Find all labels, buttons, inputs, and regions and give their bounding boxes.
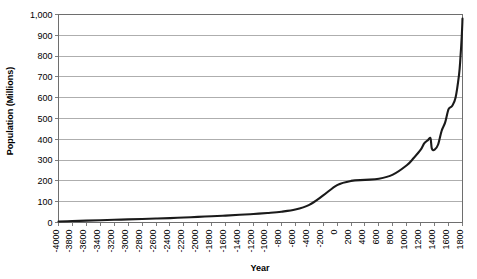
y-tick-label-800: 800	[37, 51, 52, 61]
y-tick-label-100: 100	[37, 197, 52, 207]
y-tick-label-400: 400	[37, 135, 52, 145]
x-tick-label-0: 0	[329, 230, 339, 235]
population-line-chart: Population (Millions) 010020030040050060…	[0, 0, 477, 279]
y-tick-marks	[55, 15, 59, 223]
y-tick-label-200: 200	[37, 176, 52, 186]
x-tick-label--3400: -3400	[92, 230, 102, 253]
x-tick-label--600: -600	[287, 230, 297, 248]
y-tick-label-600: 600	[37, 93, 52, 103]
data-series	[59, 19, 463, 222]
x-tick-label--3800: -3800	[64, 230, 74, 253]
x-tick-label--1600: -1600	[218, 230, 228, 253]
plot-canvas: 01002003004005006007008009001,000 -4000-…	[0, 0, 477, 279]
x-tick-label--2400: -2400	[162, 230, 172, 253]
x-axis-title-text: Year	[250, 263, 269, 273]
series-line-0	[59, 19, 463, 222]
y-tick-label-500: 500	[37, 114, 52, 124]
x-tick-label-1600: 1600	[441, 230, 451, 250]
x-axis-title: Year	[58, 263, 462, 273]
x-tick-label--800: -800	[273, 230, 283, 248]
x-tick-label--1000: -1000	[259, 230, 269, 253]
x-tick-label--1800: -1800	[204, 230, 214, 253]
x-tick-label-800: 800	[385, 230, 395, 245]
x-tick-label-600: 600	[371, 230, 381, 245]
x-tick-label-200: 200	[343, 230, 353, 245]
y-tick-labels: 01002003004005006007008009001,000	[30, 10, 53, 228]
x-tick-label--2200: -2200	[176, 230, 186, 253]
x-tick-label--400: -400	[301, 230, 311, 248]
x-tick-label--1200: -1200	[246, 230, 256, 253]
x-tick-label--3600: -3600	[78, 230, 88, 253]
y-tick-label-300: 300	[37, 155, 52, 165]
gridlines	[59, 15, 463, 202]
x-tick-label--1400: -1400	[232, 230, 242, 253]
x-tick-label--2600: -2600	[148, 230, 158, 253]
x-tick-label--3000: -3000	[120, 230, 130, 253]
y-tick-label-1000: 1,000	[30, 10, 53, 20]
x-tick-label--2000: -2000	[190, 230, 200, 253]
x-tick-label--2800: -2800	[134, 230, 144, 253]
x-tick-label--3200: -3200	[106, 230, 116, 253]
x-tick-label-400: 400	[357, 230, 367, 245]
x-tick-labels: -4000-3800-3600-3400-3200-3000-2800-2600…	[51, 230, 465, 253]
y-tick-label-700: 700	[37, 72, 52, 82]
x-tick-label-1000: 1000	[399, 230, 409, 250]
x-tick-label-1400: 1400	[427, 230, 437, 250]
y-tick-label-900: 900	[37, 31, 52, 41]
x-tick-label--200: -200	[315, 230, 325, 248]
y-tick-label-0: 0	[47, 218, 52, 228]
x-tick-label-1800: 1800	[455, 230, 465, 250]
x-tick-label-1200: 1200	[413, 230, 423, 250]
x-tick-marks	[59, 223, 463, 227]
x-tick-label--4000: -4000	[51, 230, 61, 253]
